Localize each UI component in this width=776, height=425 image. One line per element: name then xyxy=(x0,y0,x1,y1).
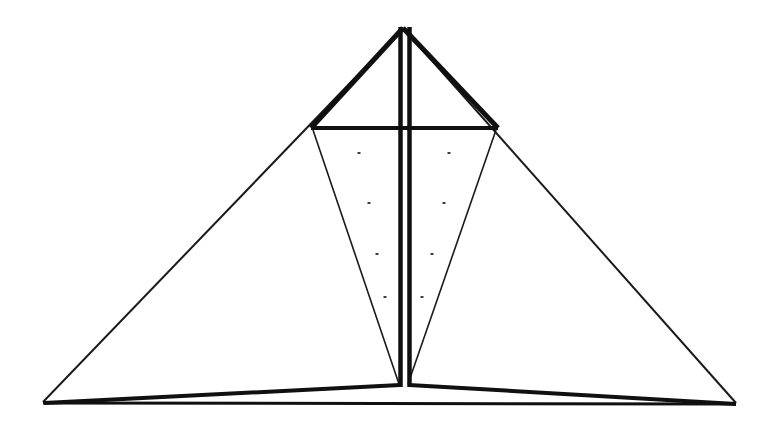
figure-canvas xyxy=(0,0,776,425)
interior-dot-7 xyxy=(384,296,387,298)
interior-dot-6 xyxy=(431,253,434,255)
interior-dot-4 xyxy=(443,202,446,204)
figure-background xyxy=(0,0,776,425)
interior-dot-5 xyxy=(376,253,379,255)
interior-dot-2 xyxy=(448,152,451,154)
interior-dot-3 xyxy=(368,202,371,204)
interior-dot-1 xyxy=(358,152,361,154)
line-drawing-svg xyxy=(0,0,776,425)
baseline xyxy=(43,403,736,404)
interior-dot-8 xyxy=(421,296,424,298)
